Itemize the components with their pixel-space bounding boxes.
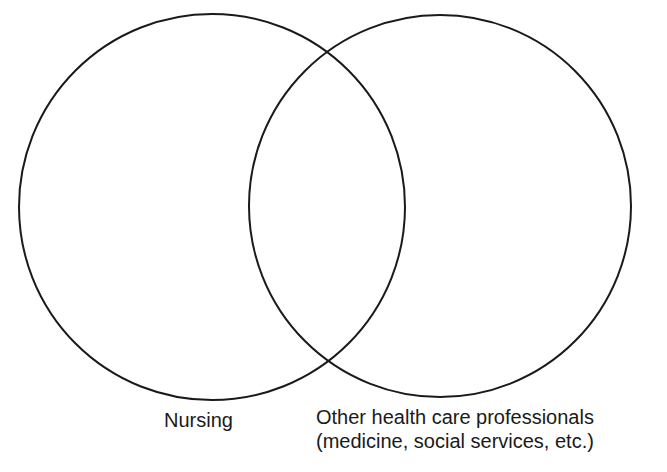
other-professionals-label-line2: (medicine, social services, etc.) [316,429,594,453]
nursing-circle [19,14,405,400]
other-professionals-circle [249,15,631,397]
other-professionals-label-line1: Other health care professionals [316,405,594,429]
other-professionals-label: Other health care professionals (medicin… [316,405,594,453]
venn-diagram [0,0,667,472]
nursing-label: Nursing [164,408,233,432]
